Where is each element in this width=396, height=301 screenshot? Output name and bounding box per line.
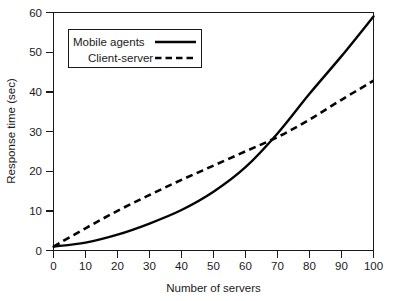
x-tick-label-60: 60 [239,260,252,272]
y-tick-label-30: 30 [29,126,42,138]
y-tick-label-20: 20 [29,165,42,177]
x-axis-title: Number of servers [166,282,261,294]
y-tick-labels: 0 10 20 30 40 50 60 [29,7,42,257]
y-tick-marks [46,13,54,251]
x-tick-label-70: 70 [271,260,284,272]
y-tick-label-40: 40 [29,86,42,98]
x-tick-label-90: 90 [335,260,348,272]
x-tick-marks [54,251,374,258]
chart-legend[interactable]: Mobile agents Client-server [69,30,202,68]
y-tick-label-60: 60 [29,7,42,19]
x-tick-labels: 0 10 20 30 40 50 60 70 80 90 100 [50,260,383,272]
x-tick-label-10: 10 [79,260,92,272]
chart-figure: 0 10 20 30 40 50 60 0 10 20 30 40 50 60 … [0,0,396,301]
y-tick-label-50: 50 [29,46,42,58]
y-tick-label-10: 10 [29,205,42,217]
x-tick-label-100: 100 [364,260,383,272]
y-tick-label-0: 0 [36,245,42,257]
x-tick-label-20: 20 [111,260,124,272]
y-axis-title: Response time (sec) [5,78,17,184]
x-tick-label-50: 50 [207,260,220,272]
legend-label-mobile-agents: Mobile agents [73,36,145,48]
chart-canvas: 0 10 20 30 40 50 60 0 10 20 30 40 50 60 … [0,0,396,301]
x-tick-label-0: 0 [50,260,56,272]
series-client-server-line [54,81,374,247]
x-tick-label-30: 30 [143,260,156,272]
x-tick-label-80: 80 [303,260,316,272]
x-tick-label-40: 40 [175,260,188,272]
legend-label-client-server: Client-server [88,52,153,64]
